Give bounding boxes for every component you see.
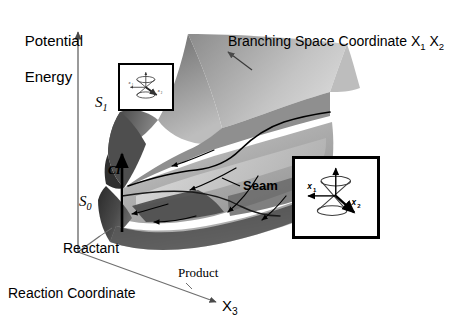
svg-text:1: 1 [313,187,317,193]
large-cone-inset: x 1 x 2 [292,156,380,239]
s1-state-label: S1 [95,94,108,113]
svg-text:2: 2 [357,203,361,209]
large-cone-graphic: x 1 x 2 [295,159,371,230]
potential-energy-label: Potential Energy [8,14,83,104]
reactant-label: Reactant [63,240,119,256]
branching-space-label: Branching Space Coordinate X1 X2 [228,33,444,52]
small-inset-x2-label: x [157,88,160,93]
seam-label: Seam [243,178,278,193]
small-cone-inset: x 1 x 2 [118,63,174,111]
large-inset-x1-label: x [306,181,312,191]
svg-text:1: 1 [132,83,134,87]
product-label: Product [178,265,218,281]
reaction-coordinate-label: Reaction Coordinate [8,285,136,301]
figure-canvas: x 1 x 2 x 1 x 2 [0,0,455,327]
small-cone-graphic: x 1 x 2 [120,65,168,105]
svg-text:2: 2 [161,91,163,95]
s0-state-label: S0 [79,193,92,212]
small-inset-x1-label: x [128,80,131,85]
x3-axis-label: X3 [222,297,238,317]
large-inset-x2-label: x [350,197,356,207]
conical-intersection-label: CI [108,163,121,178]
